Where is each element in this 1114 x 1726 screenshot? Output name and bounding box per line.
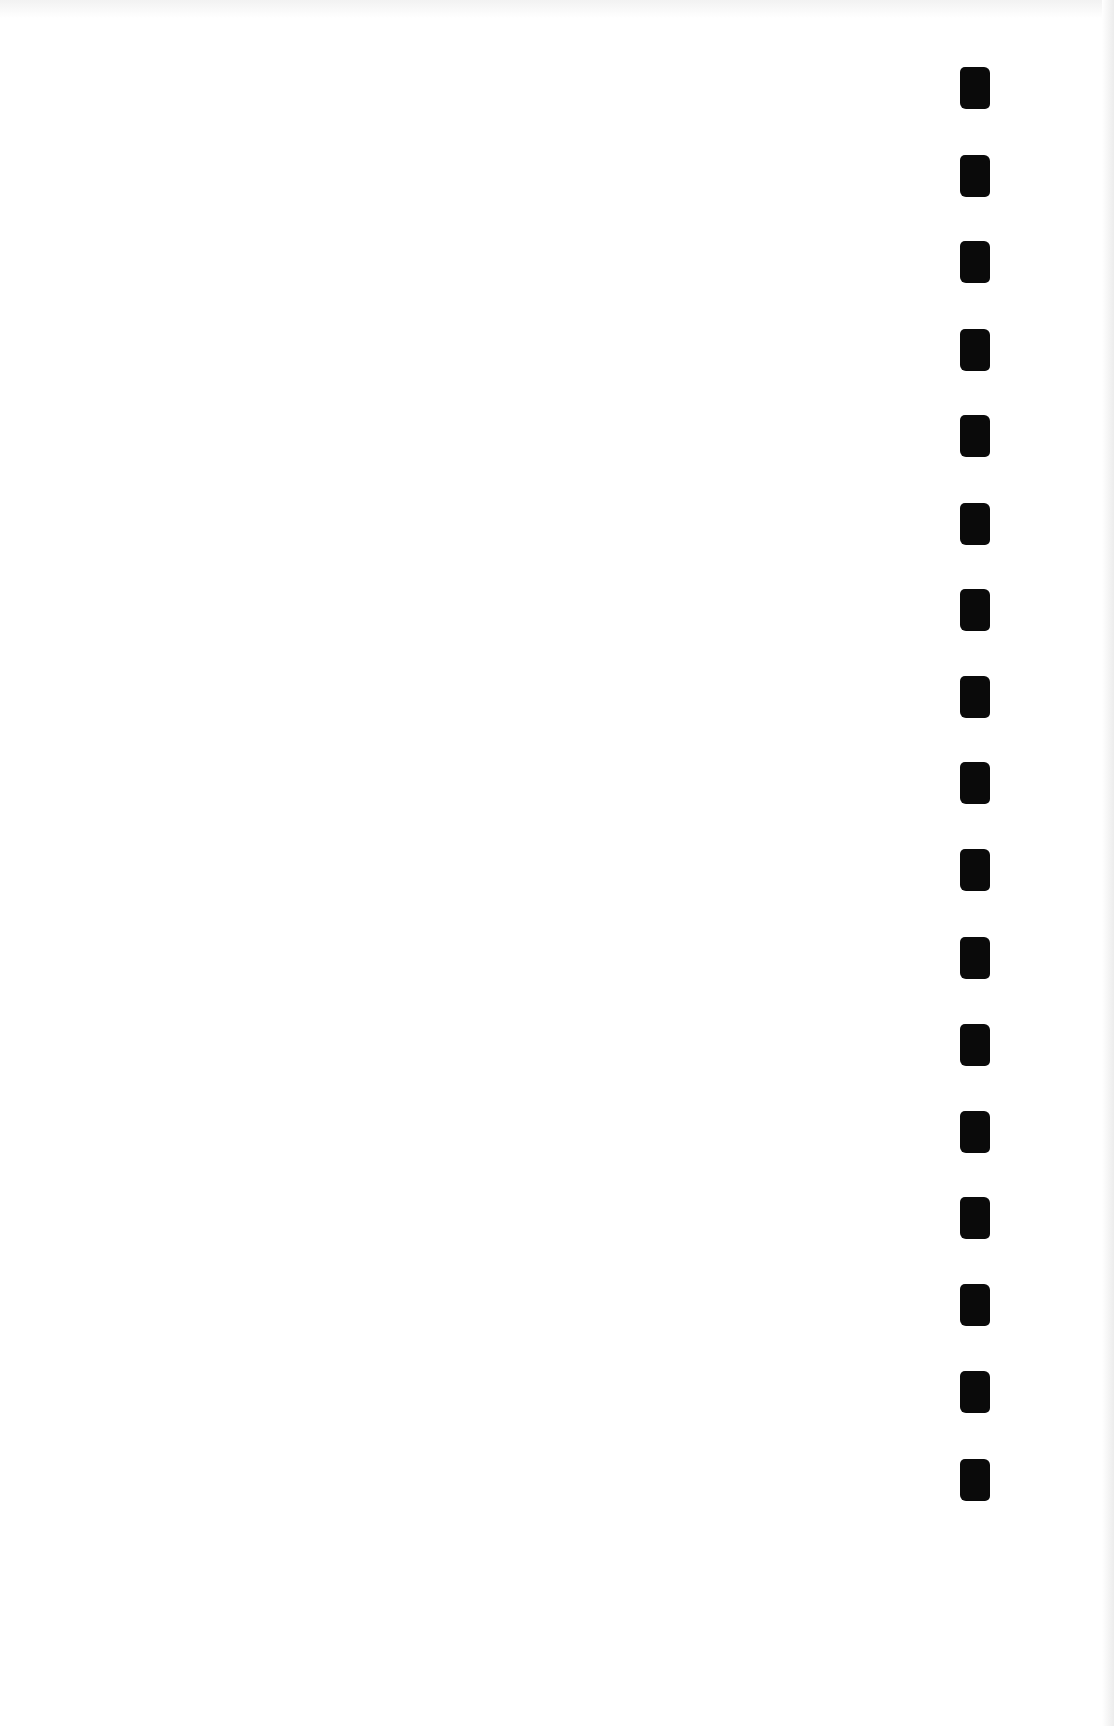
binding-mark — [960, 329, 990, 371]
binding-mark — [960, 1024, 990, 1066]
binding-mark — [960, 676, 990, 718]
blank-page — [0, 0, 1114, 1726]
binding-mark — [960, 1111, 990, 1153]
binding-mark — [960, 155, 990, 197]
binding-mark — [960, 1459, 990, 1501]
binding-marks-column — [0, 0, 1114, 1726]
binding-mark — [960, 589, 990, 631]
binding-mark — [960, 1371, 990, 1413]
binding-mark — [960, 1197, 990, 1239]
binding-mark — [960, 503, 990, 545]
binding-mark — [960, 937, 990, 979]
binding-mark — [960, 762, 990, 804]
binding-mark — [960, 415, 990, 457]
binding-mark — [960, 67, 990, 109]
binding-mark — [960, 241, 990, 283]
binding-mark — [960, 849, 990, 891]
binding-mark — [960, 1284, 990, 1326]
